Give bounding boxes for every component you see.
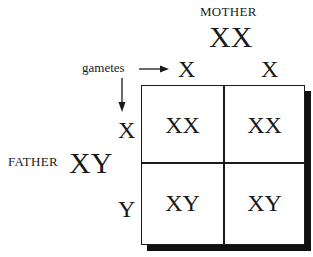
- punnett-cell: XY: [224, 164, 305, 242]
- cell-genotype: XY: [247, 191, 282, 215]
- mother-gamete-1: X: [178, 57, 195, 81]
- arrow-down-icon: [117, 77, 127, 113]
- mother-genotype: XX: [209, 22, 252, 52]
- punnett-square: XX XX XY XY: [141, 85, 305, 245]
- punnett-cell: XX: [224, 86, 305, 164]
- father-gamete-2: Y: [118, 197, 135, 221]
- cell-genotype: XY: [165, 191, 200, 215]
- mother-label: MOTHER: [200, 4, 257, 20]
- father-gamete-1: X: [118, 118, 135, 142]
- arrow-right-icon: [138, 64, 170, 74]
- gametes-label: gametes: [82, 60, 125, 76]
- mother-gamete-2: X: [261, 57, 278, 81]
- punnett-cell: XX: [142, 86, 223, 164]
- punnett-cell: XY: [142, 164, 223, 242]
- father-genotype: XY: [69, 148, 112, 178]
- father-label: FATHER: [8, 154, 58, 170]
- cell-genotype: XX: [247, 113, 282, 137]
- cell-genotype: XX: [165, 113, 200, 137]
